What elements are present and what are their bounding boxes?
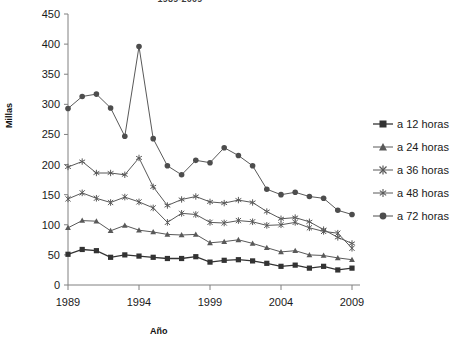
series-a-72-horas	[65, 44, 355, 218]
legend-label: a 24 horas	[397, 141, 449, 153]
svg-text:300: 300	[42, 98, 60, 110]
legend-marker-asterisk-icon	[372, 164, 394, 176]
legend-item[interactable]: a 24 horas	[372, 141, 449, 153]
legend-marker-triangle-icon	[372, 141, 394, 153]
chart-legend: a 12 horas a 24 horas a 36 horas	[372, 118, 449, 222]
chart-container: 1989-2009 Millas Año 4504003503002502001…	[0, 0, 475, 349]
legend-item[interactable]: a 36 horas	[372, 164, 449, 176]
legend-item[interactable]: a 72 horas	[372, 210, 449, 222]
legend-item[interactable]: a 12 horas	[372, 118, 449, 130]
svg-text:1989: 1989	[56, 296, 80, 308]
legend-label: a 12 horas	[397, 118, 449, 130]
legend-marker-star-icon	[372, 187, 394, 199]
svg-text:350: 350	[42, 68, 60, 80]
svg-text:400: 400	[42, 38, 60, 50]
legend-label: a 72 horas	[397, 210, 449, 222]
svg-text:1999: 1999	[198, 296, 222, 308]
svg-text:2009: 2009	[340, 296, 364, 308]
svg-text:250: 250	[42, 128, 60, 140]
legend-marker-circle-icon	[372, 210, 394, 222]
svg-text:100: 100	[42, 219, 60, 231]
svg-text:0: 0	[54, 279, 60, 291]
svg-text:450: 450	[42, 8, 60, 20]
svg-text:50: 50	[48, 249, 60, 261]
svg-text:200: 200	[42, 159, 60, 171]
legend-label: a 36 horas	[397, 164, 449, 176]
axes: 4504003503002502001501005001989199419992…	[42, 8, 365, 308]
svg-text:150: 150	[42, 189, 60, 201]
series-a-12-horas	[65, 247, 354, 273]
legend-marker-square-icon	[372, 118, 394, 130]
legend-label: a 48 horas	[397, 187, 449, 199]
data-series	[65, 44, 355, 273]
svg-text:2004: 2004	[269, 296, 293, 308]
legend-item[interactable]: a 48 horas	[372, 187, 449, 199]
svg-text:1994: 1994	[127, 296, 151, 308]
